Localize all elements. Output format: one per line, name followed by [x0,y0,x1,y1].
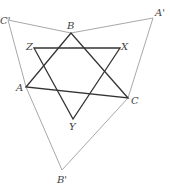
label-z: Z [25,41,34,52]
label-b-prime: B' [56,174,67,185]
label-c: C [131,95,139,106]
triangle-abc [26,33,128,98]
geometry-diagram: C' A' B' B A C Z X Y [0,0,170,189]
label-c-prime: C' [0,15,10,26]
label-b: B [66,20,74,31]
label-x: X [120,41,129,52]
label-a-prime: A' [154,7,165,18]
triangle-xyz [34,48,120,119]
label-y: Y [69,121,77,132]
label-a: A [15,82,23,93]
